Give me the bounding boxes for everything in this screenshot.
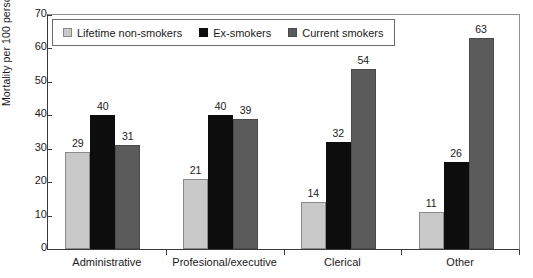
y-axis-tick-mark xyxy=(47,115,52,116)
legend-item-lifetime-non-smokers: Lifetime non-smokers xyxy=(63,27,182,39)
bar-group: 143254 xyxy=(301,15,376,249)
legend-label: Lifetime non-smokers xyxy=(77,27,182,39)
y-axis-tick-mark xyxy=(47,149,52,150)
y-axis-tick-mark xyxy=(47,182,52,183)
y-axis-tick-label: 50 xyxy=(13,75,47,86)
x-axis-tick-mark xyxy=(519,250,520,255)
legend-swatch-icon xyxy=(199,28,208,37)
bars-layer: 294031214039143254112663 xyxy=(48,15,519,249)
bar xyxy=(208,115,233,249)
bar-value-label: 40 xyxy=(84,101,121,112)
y-axis-tick-mark xyxy=(47,249,52,250)
bar-group: 112663 xyxy=(419,15,494,249)
legend-label: Ex-smokers xyxy=(213,27,271,39)
cut-off-title-sliver xyxy=(0,0,533,7)
x-axis-tick-mark xyxy=(166,250,167,255)
bar-value-label: 39 xyxy=(227,105,264,116)
bar-value-label: 54 xyxy=(345,55,382,66)
bar xyxy=(351,69,376,250)
bar xyxy=(233,119,258,249)
bar xyxy=(115,145,140,249)
bar xyxy=(65,152,90,249)
x-axis-category-label: Other xyxy=(401,256,519,269)
bar-group: 214039 xyxy=(183,15,258,249)
x-axis-tick-mark xyxy=(284,250,285,255)
y-axis-tick-label: 30 xyxy=(13,142,47,153)
y-axis-tick-label: 40 xyxy=(13,108,47,119)
bar xyxy=(326,142,351,249)
bar-group: 294031 xyxy=(65,15,140,249)
bar-chart: Mortality per 100 persons 01020304050607… xyxy=(0,0,533,278)
x-axis-category-label: Profesional/executive xyxy=(166,256,284,269)
bar-value-label: 31 xyxy=(109,131,146,142)
x-axis-tick-mark xyxy=(401,250,402,255)
y-axis-tick-label: 20 xyxy=(13,175,47,186)
bar-value-label: 63 xyxy=(463,24,500,35)
y-axis-ticks: 010203040506070 xyxy=(0,14,47,250)
legend-item-current-smokers: Current smokers xyxy=(288,27,383,39)
x-axis-category-label: Clerical xyxy=(284,256,402,269)
bar xyxy=(183,179,208,249)
y-axis-tick-label: 10 xyxy=(13,209,47,220)
legend-swatch-icon xyxy=(288,28,297,37)
bar xyxy=(469,38,494,249)
bar xyxy=(301,202,326,249)
y-axis-tick-mark xyxy=(47,15,52,16)
chart-legend: Lifetime non-smokers Ex-smokers Current … xyxy=(52,19,395,46)
legend-swatch-icon xyxy=(63,28,72,37)
bar xyxy=(419,212,444,249)
y-axis-tick-mark xyxy=(47,82,52,83)
y-axis-tick-mark xyxy=(47,216,52,217)
bar xyxy=(444,162,469,249)
y-axis-tick-label: 70 xyxy=(13,8,47,19)
legend-item-ex-smokers: Ex-smokers xyxy=(199,27,271,39)
x-axis-category-label: Administrative xyxy=(48,256,166,269)
y-axis-tick-label: 60 xyxy=(13,41,47,52)
y-axis-tick-mark xyxy=(47,48,52,49)
legend-label: Current smokers xyxy=(302,27,383,39)
y-axis-tick-label: 0 xyxy=(13,242,47,253)
